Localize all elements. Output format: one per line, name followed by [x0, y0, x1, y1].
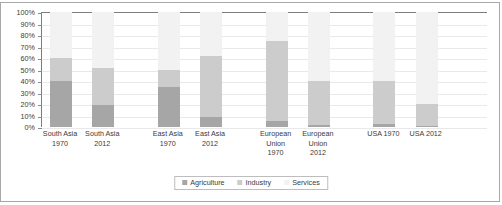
x-axis-label-line: Union — [253, 139, 297, 149]
legend-swatch-icon — [284, 180, 289, 185]
x-axis-label-line: USA 2012 — [404, 129, 448, 139]
x-axis-label: South Asia2012 — [80, 129, 124, 148]
x-axis-label-line: 1970 — [38, 139, 82, 149]
x-axis-label-line: USA 1970 — [361, 129, 405, 139]
y-axis-tick-label: 80% — [21, 32, 35, 39]
bar-segment-services[interactable] — [416, 12, 438, 104]
x-axis-labels: South Asia1970South Asia2012East Asia197… — [41, 129, 487, 169]
bar-segment-agriculture[interactable] — [266, 121, 288, 127]
y-axis-tick-label: 30% — [21, 90, 35, 97]
x-axis-label-line: South Asia — [80, 129, 124, 139]
legend-label: Agriculture — [190, 179, 224, 186]
x-axis-label-line: European — [296, 129, 340, 139]
chart-legend: AgricultureIndustryServices — [174, 176, 328, 190]
bar-segment-industry[interactable] — [158, 70, 180, 87]
bar-segment-agriculture[interactable] — [158, 87, 180, 127]
x-axis-label-line: 2012 — [80, 139, 124, 149]
legend-item-agriculture[interactable]: Agriculture — [182, 179, 224, 186]
bar-segment-services[interactable] — [158, 12, 180, 70]
bar-segment-agriculture[interactable] — [50, 81, 72, 127]
x-axis-label-line: 1970 — [146, 139, 190, 149]
bar-segment-agriculture[interactable] — [308, 125, 330, 127]
bar-segment-industry[interactable] — [200, 56, 222, 117]
x-axis-label: East Asia2012 — [188, 129, 232, 148]
plot-area: 100%90%80%70%60%50%40%30%20%10%0% — [41, 12, 487, 127]
x-axis-label-line: 1970 — [253, 148, 297, 158]
y-axis-tick-label: 100% — [17, 9, 35, 16]
x-axis-label-line: 2012 — [296, 148, 340, 158]
bar-segment-agriculture[interactable] — [373, 124, 395, 127]
x-axis-label-line: 2012 — [188, 139, 232, 149]
column-south-asia-1970[interactable] — [50, 13, 72, 127]
bar-segment-agriculture[interactable] — [416, 126, 438, 127]
y-axis-tick-label: 10% — [21, 113, 35, 120]
column-east-asia-2012[interactable] — [200, 13, 222, 127]
x-axis-label-line: East Asia — [188, 129, 232, 139]
y-axis-tick-label: 50% — [21, 67, 35, 74]
x-axis-label-line: East Asia — [146, 129, 190, 139]
bar-segment-services[interactable] — [50, 12, 72, 58]
bar-segment-services[interactable] — [200, 12, 222, 56]
legend-swatch-icon — [238, 180, 243, 185]
legend-swatch-icon — [182, 180, 187, 185]
column-usa-2012[interactable] — [416, 13, 438, 127]
legend-item-services[interactable]: Services — [284, 179, 320, 186]
column-usa-1970[interactable] — [373, 13, 395, 127]
bar-segment-industry[interactable] — [416, 104, 438, 126]
y-axis-tick-label: 90% — [21, 21, 35, 28]
x-axis-label-line: European — [253, 129, 297, 139]
bar-segment-industry[interactable] — [50, 58, 72, 81]
y-axis-tick-label: 70% — [21, 44, 35, 51]
bar-segment-industry[interactable] — [92, 68, 114, 105]
bar-segment-services[interactable] — [373, 12, 395, 81]
x-axis-label: EuropeanUnion2012 — [296, 129, 340, 158]
legend-label: Services — [292, 179, 320, 186]
y-axis-tick-label: 60% — [21, 55, 35, 62]
x-axis-label: East Asia1970 — [146, 129, 190, 148]
y-axis-tick-label: 0% — [25, 124, 35, 131]
x-axis-label: South Asia1970 — [38, 129, 82, 148]
x-axis-label: USA 2012 — [404, 129, 448, 139]
chart-figure: 100%90%80%70%60%50%40%30%20%10%0% South … — [0, 0, 502, 205]
bar-segment-services[interactable] — [308, 12, 330, 81]
legend-item-industry[interactable]: Industry — [238, 179, 272, 186]
bar-segment-services[interactable] — [92, 12, 114, 68]
x-axis-label: USA 1970 — [361, 129, 405, 139]
bar-segment-services[interactable] — [266, 12, 288, 41]
column-east-asia-1970[interactable] — [158, 13, 180, 127]
x-axis-label-line: Union — [296, 139, 340, 149]
bar-segment-industry[interactable] — [373, 81, 395, 124]
y-axis-tick-label: 20% — [21, 101, 35, 108]
bar-segment-industry[interactable] — [308, 81, 330, 125]
bar-segment-industry[interactable] — [266, 41, 288, 122]
bar-segment-agriculture[interactable] — [92, 105, 114, 127]
x-axis-label: EuropeanUnion1970 — [253, 129, 297, 158]
legend-label: Industry — [246, 179, 272, 186]
bar-segment-agriculture[interactable] — [200, 117, 222, 127]
column-european-union-2012[interactable] — [308, 13, 330, 127]
x-axis-label-line: South Asia — [38, 129, 82, 139]
y-axis-tick-label: 40% — [21, 78, 35, 85]
column-european-union-1970[interactable] — [266, 13, 288, 127]
columns-group — [42, 13, 487, 127]
column-south-asia-2012[interactable] — [92, 13, 114, 127]
